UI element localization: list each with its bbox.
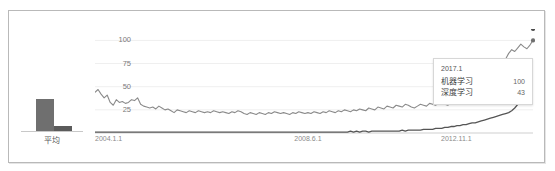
y-axis-tick-75: 75	[97, 60, 131, 68]
average-label: 平均	[19, 135, 85, 147]
average-bar-machine-learning[interactable]	[36, 99, 54, 131]
tooltip-label-deep-learning: 深度学习	[441, 87, 473, 98]
tooltip-row-machine-learning: 机器学习 100	[441, 76, 525, 87]
endpoint-marker-machine-learning	[531, 38, 535, 42]
tooltip-row-deep-learning: 深度学习 43	[441, 87, 525, 98]
endpoint-marker-deep-learning	[531, 29, 535, 31]
y-axis-tick-100: 100	[97, 36, 131, 44]
tooltip-value-machine-learning: 100	[513, 76, 525, 87]
x-axis-tick-start: 2004.1.1	[95, 135, 122, 143]
tooltip-date: 2017.1	[441, 64, 525, 74]
average-baseline	[21, 131, 83, 132]
tooltip-label-machine-learning: 机器学习	[441, 76, 473, 87]
average-bar-panel: 平均	[19, 89, 85, 147]
x-axis-tick-middle: 2008.6.1	[294, 135, 321, 143]
average-bars	[19, 93, 85, 131]
y-axis-tick-25: 25	[97, 106, 131, 114]
tooltip-value-deep-learning: 43	[517, 87, 525, 98]
y-axis-tick-50: 50	[97, 83, 131, 91]
trends-chart-panel: 平均 100 75 50 25 2004.1.1 2008.6.1 2012.1…	[8, 10, 545, 163]
x-axis-tick-late: 2012.11.1	[441, 135, 472, 143]
chart-tooltip: 2017.1 机器学习 100 深度学习 43	[433, 58, 533, 105]
